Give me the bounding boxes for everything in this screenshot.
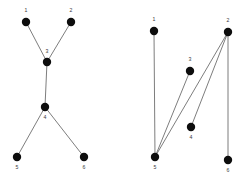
graph-node-3[interactable] <box>43 58 51 66</box>
graph-edge-3-5 <box>155 71 190 157</box>
graph-node-6[interactable] <box>80 153 88 161</box>
graph-node-6[interactable] <box>224 156 232 164</box>
graph-node-label-2: 2 <box>227 17 230 23</box>
graph-node-label-5: 5 <box>16 164 19 170</box>
graph-node-label-1: 1 <box>153 16 156 22</box>
graph-diagram-canvas: 123456 123456 <box>0 0 246 187</box>
graph-node-2[interactable] <box>67 18 75 26</box>
graph-node-1[interactable] <box>22 18 30 26</box>
left-graph-nodes <box>13 18 88 161</box>
graph-node-4[interactable] <box>41 103 49 111</box>
graph-node-label-2: 2 <box>70 7 73 13</box>
graph-node-1[interactable] <box>150 27 158 35</box>
graph-node-5[interactable] <box>151 153 159 161</box>
graph-node-label-5: 5 <box>154 164 157 170</box>
graph-node-label-6: 6 <box>83 164 86 170</box>
graph-node-2[interactable] <box>224 28 232 36</box>
graph-edge-1-3 <box>26 22 47 62</box>
graph-node-label-6: 6 <box>227 167 230 173</box>
graph-node-5[interactable] <box>13 153 21 161</box>
graph-edge-4-5 <box>17 107 45 157</box>
graph-node-4[interactable] <box>187 123 195 131</box>
graph-edge-4-6 <box>45 107 84 157</box>
graph-node-3[interactable] <box>186 67 194 75</box>
right-graph-edges <box>154 31 228 160</box>
graph-node-label-3: 3 <box>189 56 192 62</box>
graph-edge-1-5 <box>154 31 155 157</box>
graph-edge-2-4 <box>191 32 228 127</box>
graph-node-label-1: 1 <box>25 7 28 13</box>
graph-node-label-4: 4 <box>190 134 193 140</box>
figure-root: 123456 123456 <box>0 0 246 187</box>
graph-node-label-3: 3 <box>46 48 49 54</box>
graph-node-label-4: 4 <box>44 114 47 120</box>
graph-edge-3-4 <box>45 62 47 107</box>
right-graph-panel: 123456 <box>150 16 232 173</box>
left-graph-panel: 123456 <box>13 7 88 170</box>
left-graph-edges <box>17 22 84 157</box>
graph-edge-2-3 <box>47 22 71 62</box>
